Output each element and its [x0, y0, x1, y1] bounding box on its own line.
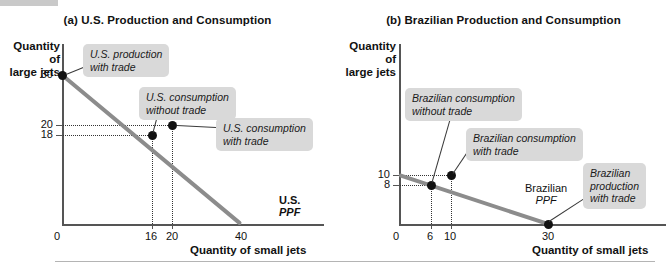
- panel-a-leader-consumption-with: [177, 125, 216, 128]
- panel-b-y-axis-label: Quantity of large jets: [336, 40, 396, 79]
- panel-b-x-axis-label: Quantity of small jets: [532, 244, 648, 256]
- panel-a-xtick-20-mark: [172, 224, 173, 229]
- panel-a-point-consumption-with-trade: [168, 121, 177, 130]
- panel-a-callout-consumption-without-trade: U.S. consumption without trade: [139, 87, 236, 120]
- panel-b-guide-v-6: [431, 185, 432, 224]
- panel-a-leader-production: [66, 67, 85, 75]
- panel-a-xtick-0: 0: [54, 230, 60, 242]
- panel-b-xtick-30: 30: [542, 230, 554, 242]
- panel-a-ytick-18-mark: [56, 135, 63, 136]
- panel-us-production-consumption: (a) U.S. Production and Consumption Quan…: [0, 0, 335, 258]
- panel-b-xtick-0: 0: [393, 230, 399, 242]
- panel-a-xtick-16: 16: [145, 230, 157, 242]
- panel-a-x-axis: [62, 224, 324, 226]
- panel-a-guide-v-20: [172, 125, 173, 224]
- panel-b-callout-consumption-with-trade: Brazilian consumption with trade: [466, 128, 583, 161]
- panel-brazil-production-consumption: (b) Brazilian Production and Consumption…: [336, 0, 671, 258]
- panel-a-x-axis-label: Quantity of small jets: [190, 244, 306, 256]
- panel-b-ppf-label-line2: PPF: [535, 194, 556, 206]
- panel-b-callout-production-with-trade: Brazilian production with trade: [583, 163, 646, 209]
- panel-b-y-axis: [399, 44, 401, 225]
- bottom-divider: [55, 261, 655, 262]
- panel-a-point-production-with-trade: [58, 71, 67, 80]
- panel-a-ytick-20-mark: [56, 125, 63, 126]
- panel-a-ppf-label-line1: U.S.: [279, 194, 300, 206]
- panel-a-xtick-16-mark: [152, 224, 153, 229]
- panel-b-point-consumption-with-trade: [447, 171, 456, 180]
- panel-b-xtick-6-mark: [431, 224, 432, 229]
- panel-b-ytick-8: 8: [358, 178, 390, 190]
- panel-a-callout-consumption-with-trade: U.S. consumption with trade: [216, 118, 313, 151]
- panel-b-guide-v-10: [451, 175, 452, 224]
- panel-b-x-axis: [399, 224, 666, 226]
- panel-b-xtick-10-mark: [451, 224, 452, 229]
- panel-b-xtick-10: 10: [444, 230, 456, 242]
- panel-b-ppf-label-line1: Brazilian: [525, 182, 567, 194]
- panel-a-xtick-40: 40: [235, 230, 247, 242]
- panel-a-guide-h-20: [63, 125, 172, 126]
- panel-b-ytick-8-mark: [393, 185, 400, 186]
- panel-a-ppf-label: U.S. PPF: [279, 194, 300, 218]
- panel-b-callout-consumption-without-trade: Brazilian consumption without trade: [405, 88, 522, 121]
- panel-a-xtick-20: 20: [166, 230, 178, 242]
- panel-a-callout-production-with-trade: U.S. production with trade: [83, 44, 169, 77]
- panel-b-xtick-6: 6: [427, 230, 433, 242]
- panel-b-ppf-label: Brazilian PPF: [525, 182, 567, 206]
- panel-a-ytick-18: 18: [20, 128, 53, 140]
- panel-a-ppf-label-line2: PPF: [279, 206, 300, 218]
- panel-a-ytick-30: 30: [20, 68, 53, 80]
- figure-root: (a) U.S. Production and Consumption Quan…: [0, 0, 671, 271]
- panel-a-title: (a) U.S. Production and Consumption: [0, 14, 335, 26]
- panel-b-title: (b) Brazilian Production and Consumption: [336, 14, 671, 26]
